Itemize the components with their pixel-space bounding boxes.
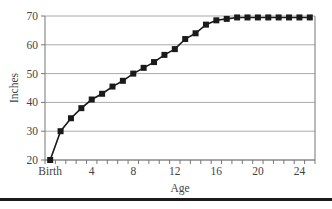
square-marker-icon [265, 14, 271, 20]
y-axis-title: Inches [8, 72, 20, 103]
square-marker-icon [110, 84, 116, 90]
square-marker-icon [161, 52, 167, 58]
bottom-rule-divider [0, 198, 332, 201]
x-axis-ticks: Birth4812162024 [38, 160, 315, 177]
square-marker-icon [307, 14, 313, 20]
square-marker-icon [213, 17, 219, 23]
x-tick-label: 12 [169, 165, 181, 177]
axes [45, 16, 315, 160]
square-marker-icon [193, 30, 199, 36]
square-marker-icon [120, 78, 126, 84]
square-marker-icon [286, 14, 292, 20]
x-tick-label: 16 [211, 165, 223, 177]
square-marker-icon [276, 14, 282, 20]
square-marker-icon [99, 91, 105, 97]
square-marker-icon [130, 71, 136, 77]
line-chart: 203040506070 Birth4812162024 Inches Age [0, 0, 332, 198]
square-marker-icon [78, 105, 84, 111]
x-tick-label: Birth [38, 165, 62, 177]
square-marker-icon [89, 97, 95, 103]
y-axis-ticks: 203040506070 [27, 10, 46, 166]
square-marker-icon [296, 14, 302, 20]
x-axis-title: Age [170, 182, 189, 195]
x-tick-label: 24 [294, 165, 306, 177]
square-marker-icon [172, 46, 178, 52]
y-tick-label: 20 [27, 154, 39, 166]
y-tick-label: 70 [27, 10, 39, 22]
square-marker-icon [234, 14, 240, 20]
square-marker-icon [68, 115, 74, 121]
gridlines [45, 16, 315, 160]
x-tick-label: 8 [130, 165, 136, 177]
square-marker-icon [245, 14, 251, 20]
y-tick-label: 40 [27, 96, 39, 108]
square-marker-icon [224, 16, 230, 22]
x-tick-label: 4 [89, 165, 95, 177]
x-tick-label: 20 [252, 165, 264, 177]
square-marker-icon [203, 22, 209, 28]
square-marker-icon [151, 59, 157, 65]
square-marker-icon [255, 14, 261, 20]
square-marker-icon [141, 65, 147, 71]
square-marker-icon [47, 157, 53, 163]
y-tick-label: 50 [27, 68, 39, 80]
y-tick-label: 30 [27, 125, 39, 137]
square-marker-icon [182, 36, 188, 42]
series-line [50, 17, 310, 160]
y-tick-label: 60 [27, 39, 39, 51]
data-series [47, 14, 313, 163]
square-marker-icon [58, 128, 64, 134]
